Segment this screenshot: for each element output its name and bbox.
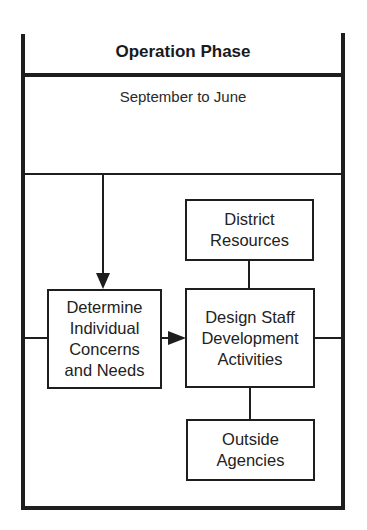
node-label-line: Agencies [217,450,285,471]
node-label-line: Outside [217,429,285,450]
connector-left-line [24,337,49,339]
diagram-subtitle: September to June [24,88,342,105]
section-divider [23,173,343,175]
node-outside-agencies: Outside Agencies [186,419,315,481]
connector-down-line [102,174,104,274]
node-label-line: and Needs [65,360,145,381]
node-label-line: Concerns [65,339,145,360]
node-design-staff-development: Design Staff Development Activities [185,288,315,388]
arrow-right-icon [168,331,186,345]
diagram-title: Operation Phase [24,42,342,62]
connector-right-line [314,337,342,339]
node-label-line: Determine [65,297,145,318]
node-label-line: Design Staff [201,307,298,328]
frame-left-border [21,34,25,510]
connector-district-design-line [248,260,250,290]
node-district-resources: District Resources [185,199,314,261]
node-label-line: Resources [210,230,289,251]
node-label-line: Activities [201,349,298,370]
connector-design-outside-line [249,387,251,421]
title-divider [23,73,343,77]
frame-bottom-border [21,506,345,510]
arrow-down-icon [96,273,110,289]
node-label-line: District [210,209,289,230]
node-label-line: Individual [65,318,145,339]
node-determine-concerns: Determine Individual Concerns and Needs [47,289,162,389]
node-label-line: Development [201,328,298,349]
